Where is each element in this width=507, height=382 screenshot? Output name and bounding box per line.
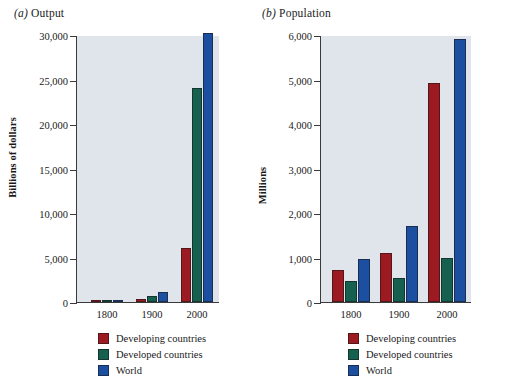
y-axis-tick	[70, 303, 77, 304]
bar-2000-developing-countries	[181, 248, 191, 302]
y-axis-tick-label: 25,000	[39, 75, 68, 86]
bar-group-2000: 2000	[428, 36, 466, 302]
panel-a-legend: Developing countries Developed countries…	[98, 331, 206, 379]
y-axis-tick-label: 5,000	[44, 253, 68, 264]
panel-b-title: (b) Population	[262, 7, 331, 19]
x-axis-label-2000: 2000	[437, 309, 458, 320]
y-axis-tick-label: 4,000	[288, 120, 312, 131]
bar-1800-developing-countries	[332, 270, 344, 302]
bar-1900-developed-countries	[147, 296, 157, 302]
legend-label-developed: Developed countries	[116, 349, 203, 360]
y-axis-tick	[314, 170, 321, 171]
bar-2000-developing-countries	[428, 83, 440, 302]
y-axis-tick	[314, 36, 321, 37]
y-axis-tick-label: 0	[307, 298, 312, 309]
bar-group-1800: 1800	[91, 36, 123, 302]
y-axis-tick	[314, 81, 321, 82]
legend-label-developed: Developed countries	[366, 349, 453, 360]
legend-swatch-world-icon	[348, 365, 359, 376]
y-axis-tick-label: 3,000	[288, 164, 312, 175]
y-axis-tick-label: 2,000	[288, 209, 312, 220]
y-axis-tick-label: 1,000	[288, 253, 312, 264]
y-axis-tick-label: 0	[63, 298, 68, 309]
y-axis-tick	[314, 303, 321, 304]
y-axis-tick-label: 10,000	[39, 209, 68, 220]
y-axis-tick	[70, 125, 77, 126]
panel-a-title: (a) Output	[14, 7, 64, 19]
y-axis-tick-label: 30,000	[39, 31, 68, 42]
y-axis-tick	[314, 259, 321, 260]
legend-swatch-developed-icon	[98, 349, 109, 360]
bar-2000-developed-countries	[192, 88, 202, 302]
legend-label-world: World	[366, 365, 392, 376]
panel-b-name: Population	[279, 7, 331, 19]
bar-1800-world	[113, 300, 123, 302]
legend-swatch-developing-icon	[98, 333, 109, 344]
legend-item-world: World	[348, 363, 456, 378]
y-axis-tick-label: 20,000	[39, 120, 68, 131]
y-axis-tick	[70, 259, 77, 260]
bar-1900-world	[406, 226, 418, 302]
x-axis-label-1800: 1800	[97, 309, 118, 320]
y-axis-tick	[70, 81, 77, 82]
y-axis-tick-label: 6,000	[288, 31, 312, 42]
legend-label-developing: Developing countries	[116, 333, 206, 344]
bar-1900-world	[158, 292, 168, 302]
y-axis-tick	[314, 125, 321, 126]
bar-1900-developed-countries	[393, 278, 405, 302]
legend-item-developing: Developing countries	[348, 331, 456, 346]
panel-a-plot-area: 05,00010,00015,00020,00025,00030,0001800…	[76, 36, 219, 303]
bar-2000-world	[454, 39, 466, 302]
bar-1800-world	[358, 259, 370, 302]
bar-1800-developing-countries	[91, 300, 101, 302]
legend-item-developed: Developed countries	[98, 347, 206, 362]
panel-b-letter: (b)	[262, 7, 276, 19]
x-axis-label-2000: 2000	[187, 309, 208, 320]
y-axis-tick-label: 5,000	[288, 75, 312, 86]
x-axis-label-1900: 1900	[389, 309, 410, 320]
y-axis-tick	[314, 214, 321, 215]
y-axis-tick	[70, 170, 77, 171]
legend-item-developed: Developed countries	[348, 347, 456, 362]
legend-item-world: World	[98, 363, 206, 378]
bar-1800-developed-countries	[345, 281, 357, 302]
panel-b-plot-area: 01,0002,0003,0004,0005,0006,000180019002…	[320, 36, 471, 303]
legend-swatch-world-icon	[98, 365, 109, 376]
legend-label-world: World	[116, 365, 142, 376]
figure-two-panel-bar-charts: (a) Output Billions of dollars 05,00010,…	[0, 0, 507, 382]
legend-item-developing: Developing countries	[98, 331, 206, 346]
x-axis-label-1800: 1800	[341, 309, 362, 320]
bar-1900-developing-countries	[380, 253, 392, 302]
x-axis-label-1900: 1900	[142, 309, 163, 320]
panel-output: (a) Output Billions of dollars 05,00010,…	[0, 0, 253, 382]
bar-group-1900: 1900	[380, 36, 418, 302]
panel-b-legend: Developing countries Developed countries…	[348, 331, 456, 379]
y-axis-tick-label: 15,000	[39, 164, 68, 175]
bar-1900-developing-countries	[136, 299, 146, 302]
bar-group-1800: 1800	[332, 36, 370, 302]
bar-group-2000: 2000	[181, 36, 213, 302]
legend-swatch-developing-icon	[348, 333, 359, 344]
bar-2000-developed-countries	[441, 258, 453, 302]
legend-label-developing: Developing countries	[366, 333, 456, 344]
bar-1800-developed-countries	[102, 300, 112, 302]
bar-group-1900: 1900	[136, 36, 168, 302]
panel-a-name: Output	[31, 7, 64, 19]
panel-population: (b) Population Millions 01,0002,0003,000…	[253, 0, 506, 382]
panel-b-y-axis-title: Millions	[257, 151, 268, 221]
bar-2000-world	[203, 33, 213, 302]
y-axis-tick	[70, 214, 77, 215]
legend-swatch-developed-icon	[348, 349, 359, 360]
panel-a-letter: (a)	[14, 7, 28, 19]
panel-a-y-axis-title: Billions of dollars	[7, 98, 18, 218]
y-axis-tick	[70, 36, 77, 37]
